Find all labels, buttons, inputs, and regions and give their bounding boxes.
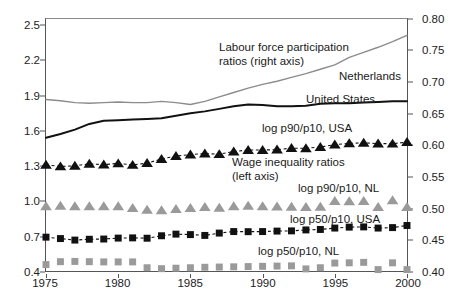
x-axis-tick-5: 2000: [395, 277, 421, 289]
annotation-netherlands: Netherlands: [339, 70, 401, 84]
x-axis-tick-3: 1990: [250, 277, 276, 289]
x-axis-tick-0: 1975: [32, 277, 58, 289]
right-axis-tick-5: 0.65: [414, 108, 444, 120]
x-axis-tickmark-0: [46, 274, 47, 278]
right-axis-tickmark-8: [408, 18, 413, 19]
right-axis-tick-labels: 0.400.450.500.550.600.650.700.750.80: [414, 18, 454, 272]
x-axis-tick-2: 1985: [177, 277, 203, 289]
series-3: [40, 195, 413, 214]
right-axis-tickmark-6: [408, 81, 413, 82]
x-axis-tickmark-2: [190, 274, 191, 278]
left-axis-tick-6: 2.2: [24, 54, 40, 66]
right-axis-tick-3: 0.55: [414, 171, 444, 183]
chart-figure: 0.40.71.01.31.61.92.22.5 0.400.450.500.5…: [0, 0, 454, 304]
left-axis-tick-1: 0.7: [24, 231, 40, 243]
annotation-p90p10-usa: log p90/p10, USA: [262, 122, 352, 136]
x-axis-tick-labels: 197519801985199019952000: [45, 274, 408, 296]
left-axis-tick-4: 1.6: [24, 125, 40, 137]
x-axis-tickmark-3: [263, 274, 264, 278]
right-axis-tickmark-5: [408, 113, 413, 114]
right-axis-tick-1: 0.45: [414, 234, 444, 246]
left-axis-tick-5: 1.9: [24, 90, 40, 102]
right-axis-tick-6: 0.70: [414, 76, 444, 88]
annotation-p90p10-nl: log p90/p10, NL: [298, 182, 379, 196]
left-axis-tick-2: 1.0: [24, 195, 40, 207]
right-axis-tick-7: 0.75: [414, 44, 444, 56]
series-1: [46, 101, 407, 137]
annotation-p50p10-nl: log p50/p10, NL: [258, 245, 339, 259]
right-axis-tickmark-1: [408, 240, 413, 241]
left-axis-tick-labels: 0.40.71.01.31.61.92.22.5: [0, 18, 40, 272]
series-5: [43, 258, 411, 273]
right-axis-tickmark-3: [408, 176, 413, 177]
left-axis-tick-3: 1.3: [24, 160, 40, 172]
right-axis-tick-4: 0.60: [414, 139, 444, 151]
x-axis-tickmark-1: [118, 274, 119, 278]
annotation-united-states: United States: [306, 93, 375, 107]
x-axis-tickmark-4: [335, 274, 336, 278]
annotation-wage-inequality: Wage inequality ratios (left axis): [232, 156, 345, 183]
series-2: [40, 137, 413, 170]
x-axis-tick-1: 1980: [105, 277, 131, 289]
x-axis-tickmark-5: [407, 274, 408, 278]
annotation-labour-force-participation: Labour force participation ratios (right…: [219, 41, 349, 68]
right-axis-tick-8: 0.80: [414, 13, 444, 25]
x-axis-tick-4: 1995: [323, 277, 349, 289]
left-axis-tick-7: 2.5: [24, 19, 40, 31]
right-axis-tickmark-7: [408, 50, 413, 51]
annotation-p50p10-usa: log p50/p10, USA: [290, 213, 380, 227]
right-axis-tick-2: 0.50: [414, 203, 444, 215]
